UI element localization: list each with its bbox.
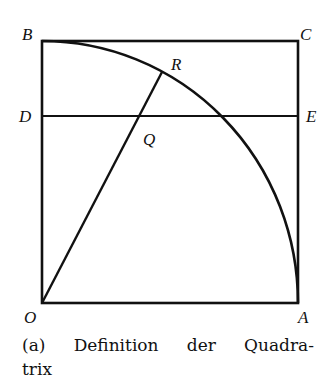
label-d: D	[18, 107, 32, 126]
caption-word: (a)	[22, 333, 45, 357]
caption-word: der	[187, 333, 216, 357]
caption-word: Quadra-	[244, 333, 314, 357]
caption-line-2: trix	[22, 357, 314, 381]
label-r: R	[170, 55, 182, 74]
quadratrix-diagram: B C D E R Q O A	[0, 0, 335, 389]
label-e: E	[305, 107, 317, 126]
figure-caption: (a) Definition der Quadra- trix	[22, 333, 314, 381]
label-q: Q	[143, 130, 155, 149]
label-a: A	[297, 308, 309, 327]
label-o: O	[24, 308, 36, 327]
arc-ba	[42, 41, 298, 303]
line-or	[42, 72, 162, 303]
square-oabc	[42, 41, 298, 303]
label-c: C	[300, 25, 312, 44]
caption-word: Definition	[74, 333, 159, 357]
label-b: B	[22, 25, 33, 44]
